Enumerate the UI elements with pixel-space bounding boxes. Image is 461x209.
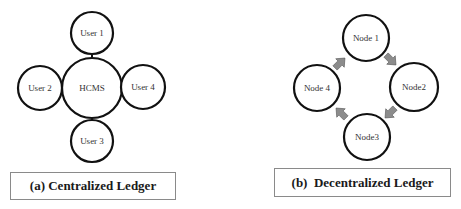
node2-label: Node2 [402,82,426,92]
user4-label: User 4 [131,82,155,92]
arrow-node1-to-node2-icon [382,51,400,69]
arrow-node3-to-node4-icon [332,104,350,122]
decentralized-ledger-caption: (b) Decentralized Ledger [274,168,451,197]
user2-label: User 2 [28,83,52,93]
node3-label: Node3 [355,132,379,142]
user1-label: User 1 [80,28,104,38]
node1-label: Node 1 [353,33,379,43]
user3-label: User 3 [80,136,104,146]
arrow-node2-to-node3-icon [381,104,399,122]
node4-label: Node 4 [304,83,331,93]
centralized-ledger-caption: (a) Centralized Ledger [10,172,176,200]
arrow-node4-to-node1-icon [331,54,349,72]
hcms-label: HCMS [79,83,105,93]
centralized-ledger-diagram: HCMS User 1 User 2 User 3 User 4 [18,12,165,162]
decentralized-ledger-diagram: Node 1 Node2 Node3 Node 4 [294,15,438,160]
